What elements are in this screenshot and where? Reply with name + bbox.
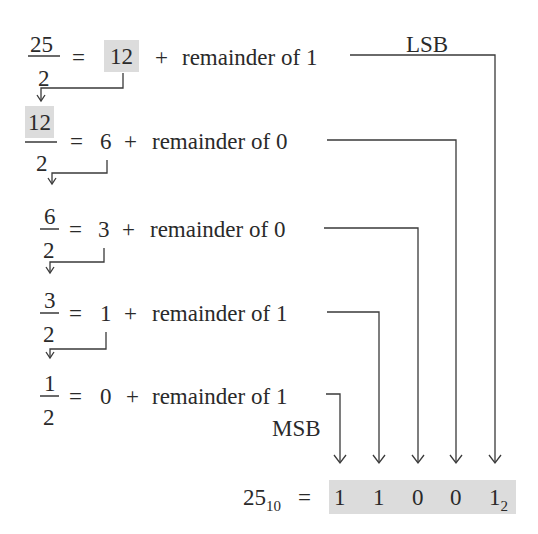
remainder-text: remainder of 1	[182, 46, 317, 69]
remainder-text: remainder of 0	[150, 218, 285, 241]
bit-4: 0	[450, 486, 462, 509]
numerator: 6	[44, 205, 56, 228]
equals-sign: =	[69, 385, 82, 408]
denominator: 2	[43, 406, 55, 429]
carry-line-1	[41, 73, 123, 100]
quotient: 0	[100, 385, 112, 408]
quotient-highlight: 12	[104, 40, 139, 72]
numerator: 3	[44, 289, 56, 312]
plus-sign: +	[155, 46, 168, 69]
numerator: 1	[44, 372, 56, 395]
remainder-text: remainder of 1	[152, 385, 287, 408]
remainder-text: remainder of 1	[152, 302, 287, 325]
equals-sign: =	[298, 486, 311, 509]
connector-lines	[0, 0, 538, 534]
decimal-value: 2510	[243, 486, 281, 509]
numerator-highlight: 12	[25, 106, 54, 138]
equals-sign: =	[69, 218, 82, 241]
remainder-line-lsb	[350, 55, 495, 462]
denominator: 2	[43, 323, 55, 346]
bit-lsb: 12	[489, 486, 508, 509]
bit-3: 0	[412, 486, 424, 509]
quotient: 6	[100, 130, 112, 153]
equals-sign: =	[70, 130, 83, 153]
msb-label: MSB	[272, 417, 321, 440]
equals-sign: =	[72, 46, 85, 69]
quotient: 1	[100, 302, 112, 325]
quotient: 3	[98, 218, 110, 241]
bit-msb: 1	[334, 486, 346, 509]
denominator: 2	[43, 239, 55, 262]
denominator: 2	[36, 152, 48, 175]
equals-sign: =	[69, 302, 82, 325]
plus-sign: +	[122, 218, 135, 241]
bit-2: 1	[373, 486, 385, 509]
remainder-line-msb	[326, 394, 340, 462]
denominator: 2	[38, 67, 50, 90]
remainder-text: remainder of 0	[152, 130, 287, 153]
numerator: 25	[30, 33, 53, 56]
plus-sign: +	[126, 385, 139, 408]
plus-sign: +	[124, 302, 137, 325]
plus-sign: +	[124, 130, 137, 153]
lsb-label: LSB	[406, 33, 448, 56]
